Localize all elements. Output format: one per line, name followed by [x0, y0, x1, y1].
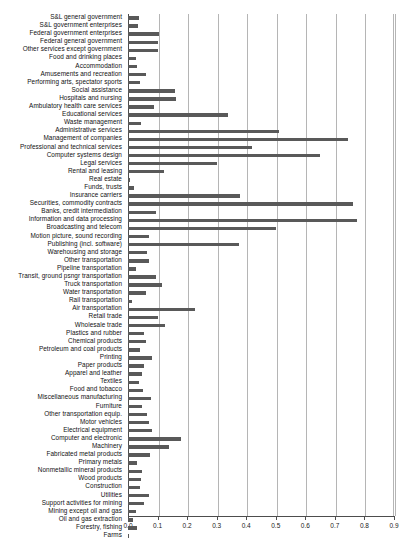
- bar-track: [128, 249, 394, 257]
- bar: [128, 364, 144, 367]
- bar: [128, 251, 147, 254]
- bar: [128, 470, 142, 473]
- bar: [128, 324, 165, 327]
- bar: [128, 235, 149, 238]
- bar: [128, 49, 158, 52]
- bar: [128, 267, 136, 270]
- bar: [128, 518, 133, 521]
- bar-track: [128, 297, 394, 305]
- bar: [128, 130, 279, 133]
- bar: [128, 494, 149, 497]
- bar: [128, 243, 239, 246]
- category-label: Farms: [0, 531, 122, 539]
- bar-track: [128, 95, 394, 103]
- bar: [128, 534, 129, 537]
- bar-track: [128, 192, 394, 200]
- bar: [128, 24, 138, 27]
- bar-track: [128, 111, 394, 119]
- bar-track: [128, 289, 394, 297]
- bar: [128, 405, 142, 408]
- bar-track: [128, 475, 394, 483]
- bar-track: [128, 378, 394, 386]
- bar: [128, 510, 136, 513]
- bar: [128, 113, 228, 116]
- bar-track: [128, 135, 394, 143]
- bar: [128, 89, 175, 92]
- bar: [128, 154, 320, 157]
- bar-track: [128, 224, 394, 232]
- bar: [128, 478, 141, 481]
- bar-track: [128, 435, 394, 443]
- bar: [128, 291, 146, 294]
- bar-track: [128, 38, 394, 46]
- bar: [128, 211, 156, 214]
- bar-track: [128, 127, 394, 135]
- bar-track: [128, 257, 394, 265]
- bar-track: [128, 451, 394, 459]
- bar-track: [128, 144, 394, 152]
- bar: [128, 105, 154, 108]
- bar-track: [128, 160, 394, 168]
- bar-track: [128, 30, 394, 38]
- bar: [128, 194, 240, 197]
- bar: [128, 437, 181, 440]
- bar: [128, 283, 162, 286]
- bar-track: [128, 492, 394, 500]
- bar-track: [128, 524, 394, 532]
- bar-track: [128, 208, 394, 216]
- bar-track: [128, 467, 394, 475]
- bar: [128, 502, 144, 505]
- bar-track: [128, 200, 394, 208]
- bar: [128, 372, 142, 375]
- bar-track: [128, 241, 394, 249]
- bar-track: [128, 71, 394, 79]
- bar-track: [128, 403, 394, 411]
- bar: [128, 16, 139, 19]
- bar-track: [128, 216, 394, 224]
- bar-rows: S&L general governmentS&L government ent…: [0, 14, 412, 540]
- bar-track: [128, 103, 394, 111]
- bar: [128, 32, 159, 35]
- bar: [128, 461, 137, 464]
- horizontal-bar-chart: 0.00.10.20.30.40.50.60.70.80.9 S&L gener…: [0, 0, 412, 542]
- bar-track: [128, 281, 394, 289]
- bar-row: Farms: [0, 532, 412, 540]
- bar-track: [128, 362, 394, 370]
- bar-track: [128, 394, 394, 402]
- bar: [128, 300, 132, 303]
- bar: [128, 41, 158, 44]
- bar: [128, 170, 164, 173]
- bar: [128, 162, 217, 165]
- bar-track: [128, 322, 394, 330]
- bar-track: [128, 233, 394, 241]
- bar: [128, 340, 146, 343]
- bar: [128, 445, 169, 448]
- bar-track: [128, 346, 394, 354]
- bar-track: [128, 119, 394, 127]
- bar: [128, 97, 176, 100]
- bar-track: [128, 273, 394, 281]
- bar-track: [128, 427, 394, 435]
- bar: [128, 219, 357, 222]
- bar: [128, 202, 353, 205]
- bar: [128, 122, 141, 125]
- bar-track: [128, 87, 394, 95]
- bar: [128, 81, 140, 84]
- bar-track: [128, 411, 394, 419]
- bar: [128, 486, 140, 489]
- bar-track: [128, 500, 394, 508]
- bar: [128, 308, 195, 311]
- bar: [128, 389, 143, 392]
- bar-track: [128, 305, 394, 313]
- bar-track: [128, 152, 394, 160]
- bar-track: [128, 443, 394, 451]
- bar: [128, 138, 348, 141]
- bar-track: [128, 483, 394, 491]
- bar: [128, 397, 151, 400]
- bar-track: [128, 386, 394, 394]
- bar: [128, 332, 144, 335]
- bar: [128, 57, 136, 60]
- bar-track: [128, 419, 394, 427]
- bar: [128, 429, 152, 432]
- bar-track: [128, 508, 394, 516]
